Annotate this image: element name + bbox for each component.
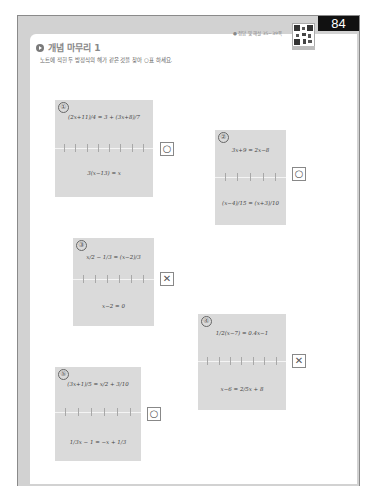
qr-caption-bar [292, 46, 315, 50]
section-title-text: 개념 마무리 1 [48, 41, 101, 54]
problem-card-2: ② 3x+9 = 2x−8 (x−4)/15 = (x+3)/10 [215, 130, 286, 225]
page-number: 84 [318, 16, 359, 31]
problem-card-3: ③ x/2 − 1/3 = (x−2)/3 x−2 = 0 [73, 238, 154, 326]
binder-ticks [77, 275, 150, 283]
answer-box-1[interactable]: ○ [160, 142, 174, 156]
bottom-equation: 3(x−13) = x [55, 170, 153, 176]
instruction-text: 노트에 적힌 두 방정식의 해가 같은 것을 찾아 ○표 하세요. [40, 56, 172, 64]
answer-box-5[interactable]: ○ [147, 407, 161, 421]
binder-ticks [59, 408, 137, 416]
play-icon [36, 44, 44, 52]
problem-number: ⑤ [58, 369, 69, 380]
problem-number: ① [58, 102, 69, 113]
problem-number: ④ [201, 316, 212, 327]
top-equation: (2x+11)/4 = 3 + (3x+8)/7 [55, 114, 153, 120]
bottom-equation: 1/3x − 1 = −x + 1/3 [55, 439, 141, 445]
bottom-equation: x−6 = 2/5x + 8 [198, 386, 286, 392]
top-equation: 1/2(x−7) = 0.4x−1 [198, 330, 286, 336]
bottom-equation: x−2 = 0 [73, 303, 154, 309]
top-equation: (3x+1)/5 = x/2 + 3/10 [55, 381, 141, 387]
binder-ticks [219, 173, 282, 181]
top-equation: 3x+9 = 2x−8 [215, 147, 286, 153]
answer-box-4[interactable]: ✕ [292, 354, 306, 368]
problem-card-5: ⑤ (3x+1)/5 = x/2 + 3/10 1/3x − 1 = −x + … [55, 367, 141, 461]
section-title: 개념 마무리 1 [36, 41, 101, 54]
answer-reference: ● 정답 및 해설 35~39쪽 [233, 30, 282, 36]
bottom-equation: (x−4)/15 = (x+3)/10 [215, 200, 286, 206]
problem-card-4: ④ 1/2(x−7) = 0.4x−1 x−6 = 2/5x + 8 [198, 314, 286, 410]
qr-code-icon[interactable] [292, 23, 315, 47]
top-equation: x/2 − 1/3 = (x−2)/3 [73, 254, 154, 260]
answer-box-2[interactable]: ○ [292, 167, 306, 181]
answer-box-3[interactable]: ✕ [160, 272, 174, 286]
problem-number: ② [218, 132, 229, 143]
problem-number: ③ [76, 240, 87, 251]
problem-card-1: ① (2x+11)/4 = 3 + (3x+8)/7 3(x−13) = x [55, 100, 153, 197]
binder-ticks [202, 357, 282, 365]
binder-ticks [59, 144, 149, 152]
